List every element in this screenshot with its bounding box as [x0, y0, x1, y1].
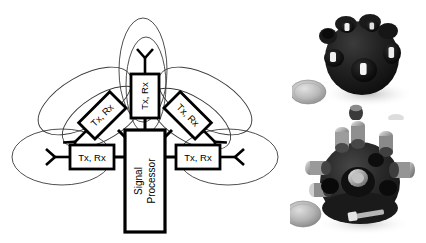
transceiver-left-antenna-arm-bottom — [46, 157, 55, 165]
scale-coin-top — [292, 80, 326, 104]
transceiver-left-antenna-arm-top — [46, 149, 55, 157]
loose-component-top-face — [350, 105, 362, 111]
sensor-port-5-highlight — [360, 63, 367, 75]
sensor-port-4-highlight — [330, 52, 336, 62]
sensor-port-6 — [322, 29, 334, 39]
sensor-port-2-highlight — [370, 23, 375, 30]
photo-top-svg — [292, 0, 426, 122]
transducer-module-right — [389, 162, 415, 178]
figure-root: Signal Processor Tx, Rx Tx, Rx — [0, 0, 426, 243]
transceiver-top-label: Tx, Rx — [139, 82, 150, 110]
signal-processor-label-line1: Signal — [133, 167, 144, 195]
transceiver-left[interactable]: Tx, Rx — [46, 145, 114, 169]
photo-bottom-svg — [290, 120, 426, 243]
sensor-boss-top-right — [378, 23, 398, 39]
transducer-module-up-right — [379, 131, 393, 157]
sensor-port-upper-right-populated — [368, 153, 384, 167]
transducer-module-left — [305, 161, 331, 175]
transducer-module-up-left — [335, 127, 349, 153]
transceiver-right-antenna-arm-bottom — [235, 157, 244, 165]
sensor-port-left-populated — [321, 178, 339, 194]
transceiver-right[interactable]: Tx, Rx — [176, 145, 244, 169]
transceiver-top-antenna-arm-right — [145, 49, 153, 58]
sensor-port-1-highlight — [345, 23, 350, 31]
photographs-panel — [290, 0, 426, 243]
block-diagram-panel: Signal Processor Tx, Rx Tx, Rx — [0, 0, 290, 243]
transceiver-top-antenna-arm-left — [137, 49, 145, 58]
transducer-module-center-inner — [352, 173, 364, 184]
scale-coin-bottom — [290, 201, 321, 227]
transducer-module-up-center — [351, 121, 365, 149]
sensor-port-3-highlight — [389, 47, 395, 58]
sensor-port-right-populated — [379, 180, 397, 196]
photo-spherical-sensor-bare — [292, 0, 426, 122]
transceiver-left-label: Tx, Rx — [78, 152, 106, 163]
signal-processor-label-line2: Processor — [146, 158, 157, 204]
block-diagram-svg: Signal Processor Tx, Rx Tx, Rx — [0, 0, 290, 243]
transceiver-right-antenna-arm-top — [235, 149, 244, 157]
photo-spherical-sensor-populated — [290, 120, 426, 243]
transceiver-right-label: Tx, Rx — [184, 152, 212, 163]
transceiver-top[interactable]: Tx, Rx — [131, 49, 159, 118]
